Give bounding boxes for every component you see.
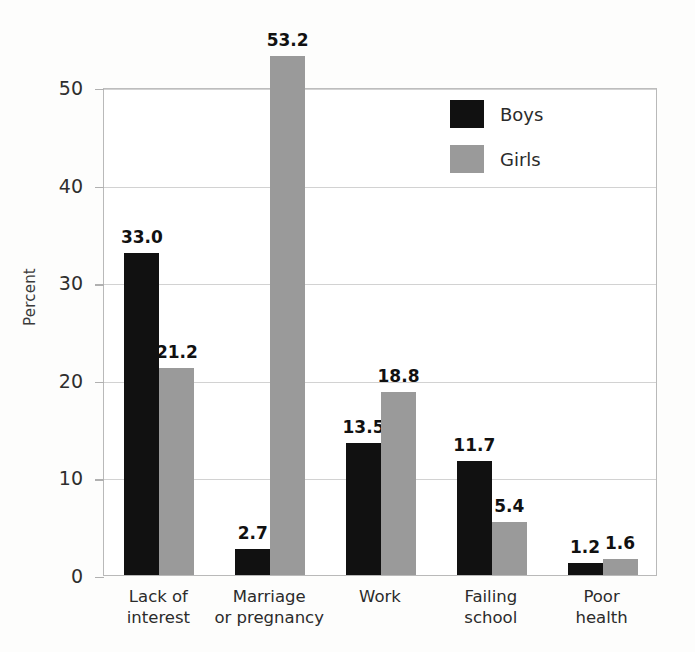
bar-value-label: 1.6 — [605, 533, 635, 553]
gray-swatch — [450, 145, 484, 173]
bar-value-label: 53.2 — [267, 30, 309, 50]
legend-item-boys[interactable]: Boys — [450, 100, 543, 128]
bar-value-label: 1.2 — [570, 537, 600, 557]
bar-girls-1[interactable] — [270, 56, 305, 575]
x-axis-label-1: Marriageor pregnancy — [214, 586, 324, 628]
y-axis-tick — [95, 479, 104, 480]
x-axis-label-line: Poor — [575, 586, 627, 607]
bar-value-label: 33.0 — [121, 227, 163, 247]
legend-label-boys: Boys — [500, 104, 543, 125]
bar-girls-3[interactable] — [492, 522, 527, 575]
bar-girls-0[interactable] — [159, 368, 194, 575]
x-axis-label-line: or pregnancy — [214, 607, 324, 628]
bar-boys-3[interactable] — [457, 461, 492, 575]
y-axis-tick-label: 10 — [37, 467, 83, 489]
black-swatch — [450, 100, 484, 128]
legend: Boys Girls — [450, 100, 543, 190]
x-axis-label-3: Failingschool — [464, 586, 517, 628]
gridline — [104, 89, 656, 90]
bar-value-label: 13.5 — [343, 417, 385, 437]
y-axis-tick-label: 0 — [37, 565, 83, 587]
y-axis-tick-label: 30 — [37, 272, 83, 294]
x-axis-label-line: interest — [127, 607, 190, 628]
bar-boys-0[interactable] — [124, 253, 159, 575]
bar-boys-2[interactable] — [346, 443, 381, 575]
x-axis-label-0: Lack ofinterest — [127, 586, 190, 628]
bar-value-label: 5.4 — [494, 496, 524, 516]
y-axis-title: Percent — [21, 237, 39, 357]
bar-value-label: 21.2 — [156, 342, 198, 362]
plot-area: 33.02.713.511.71.221.253.218.85.41.6 — [103, 88, 657, 576]
x-axis-label-line: school — [464, 607, 517, 628]
y-axis-tick — [95, 577, 104, 578]
y-axis-tick — [95, 89, 104, 90]
bar-chart: Percent 33.02.713.511.71.221.253.218.85.… — [0, 0, 695, 652]
y-axis-tick — [95, 187, 104, 188]
x-axis-label-2: Work — [359, 586, 401, 607]
y-axis-tick-label: 40 — [37, 175, 83, 197]
bar-value-label: 2.7 — [238, 523, 268, 543]
x-axis-label-line: Marriage — [214, 586, 324, 607]
y-axis-tick-label: 20 — [37, 370, 83, 392]
bar-girls-4[interactable] — [603, 559, 638, 575]
gridline — [104, 284, 656, 285]
x-axis-label-4: Poorhealth — [575, 586, 627, 628]
bar-girls-2[interactable] — [381, 392, 416, 575]
x-axis-label-line: health — [575, 607, 627, 628]
bar-value-label: 11.7 — [453, 435, 495, 455]
bar-boys-1[interactable] — [235, 549, 270, 575]
x-axis-label-line: Failing — [464, 586, 517, 607]
legend-label-girls: Girls — [500, 149, 541, 170]
y-axis-tick-label: 50 — [37, 77, 83, 99]
gridline — [104, 187, 656, 188]
bar-boys-4[interactable] — [568, 563, 603, 575]
x-axis-label-line: Lack of — [127, 586, 190, 607]
x-axis-label-line: Work — [359, 586, 401, 607]
y-axis-tick — [95, 284, 104, 285]
y-axis-tick — [95, 382, 104, 383]
legend-item-girls[interactable]: Girls — [450, 145, 543, 173]
bar-value-label: 18.8 — [378, 366, 420, 386]
